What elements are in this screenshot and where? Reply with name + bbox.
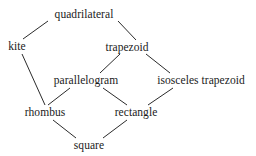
edge-trapezoid-to-isosceles_trapezoid [146,54,170,73]
edge-kite-to-rhombus [22,54,45,105]
quadrilateral-hierarchy-diagram: quadrilateralkitetrapezoidparallelogrami… [0,0,256,156]
node-label-parallelogram: parallelogram [54,74,119,86]
edge-parallelogram-to-rectangle [103,88,127,105]
node-label-isosceles_trapezoid: isosceles trapezoid [157,74,245,86]
edge-isosceles_trapezoid-to-rectangle [148,88,173,105]
node-label-rhombus: rhombus [25,106,66,118]
edge-trapezoid-to-parallelogram [100,54,120,73]
edge-rectangle-to-square [103,120,127,138]
edge-parallelogram-to-rhombus [48,88,70,105]
node-label-rectangle: rectangle [115,106,158,118]
edge-rhombus-to-square [53,120,76,138]
node-label-square: square [74,139,104,151]
node-label-trapezoid: trapezoid [105,41,148,53]
node-label-quadrilateral: quadrilateral [55,8,114,20]
edge-quadrilateral-to-kite [23,21,48,39]
edge-quadrilateral-to-trapezoid [118,21,136,40]
node-label-kite: kite [8,40,25,52]
